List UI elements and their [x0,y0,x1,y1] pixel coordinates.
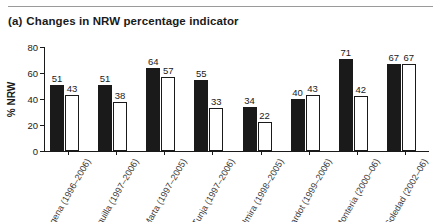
bar-value-label-before: 64 [148,56,159,67]
bar-value-label-after: 67 [404,52,415,63]
y-tick-label: 0 [33,146,38,157]
bar-value-label-after: 38 [115,90,126,101]
x-axis-category-label: Girardot (1999–2006) [282,157,334,222]
x-tick-mark [164,151,165,155]
x-axis-category-label: Soledad (2002–06) [383,157,430,222]
bar-value-label-before: 51 [52,73,63,84]
bar-after [209,108,223,151]
figure-caption: (a)Changes in NRW percentage indicator [8,15,239,27]
x-tick-mark [357,151,358,155]
y-tick-label: 60 [27,68,38,79]
chart-plot-area: 020406080 514351386457553334224043714267… [44,47,429,152]
bar-after [306,95,320,151]
bar-after [402,64,416,151]
x-tick-mark [405,151,406,155]
bar-after [354,96,368,151]
bar-group: 3422 [237,47,285,151]
bar-group: 6767 [381,47,429,151]
bar-value-label-before: 67 [389,52,400,63]
bar-value-label-after: 43 [307,83,318,94]
x-tick-mark [261,151,262,155]
bar-value-label-before: 40 [292,87,303,98]
y-tick-label: 20 [27,120,38,131]
bar-after [161,77,175,151]
x-tick-mark [116,151,117,155]
bar-group: 6457 [140,47,188,151]
x-axis-category-label: Tunja (1997–2006) [191,157,238,222]
bar-before [98,85,112,151]
bar-before [243,107,257,151]
x-tick-mark [68,151,69,155]
bar-value-label-after: 33 [211,96,222,107]
bar-group: 7142 [333,47,381,151]
y-axis-title: % NRW [5,47,19,152]
bar-group: 5143 [44,47,92,151]
bar-value-label-after: 57 [163,65,174,76]
bar-after [65,95,79,151]
top-divider [8,6,433,7]
x-axis-category-label: Monteria (2000–06) [334,157,382,222]
x-axis-line [44,151,429,152]
bar-before [387,64,401,151]
bar-value-label-after: 42 [355,84,366,95]
bar-value-label-before: 55 [196,68,207,79]
caption-text: Changes in NRW percentage indicator [26,15,238,27]
bar-value-label-after: 43 [67,83,78,94]
y-axis-title-text: % NRW [7,82,18,117]
bar-value-label-before: 34 [244,95,255,106]
bar-group: 5533 [188,47,236,151]
bar-value-label-after: 22 [259,110,270,121]
x-axis-category-label: Palmira (1998–2005) [235,157,286,222]
x-axis-category-label: Santa Marta (1997–2005) [129,157,189,222]
bar-after [113,102,127,151]
y-tick-mark [40,151,44,152]
x-axis-category-label: Barranquilla (1997–2006) [81,157,140,222]
bar-group: 5138 [92,47,140,151]
bar-before [291,99,305,151]
bar-before [339,59,353,151]
x-axis-category-label: Cartagena (1996–2006) [36,157,92,222]
bar-value-label-before: 51 [100,73,111,84]
bar-before [50,85,64,151]
bar-before [146,68,160,151]
bar-before [194,80,208,152]
bar-after [258,122,272,151]
y-tick-label: 40 [27,94,38,105]
y-tick-label: 80 [27,42,38,53]
bar-group: 4043 [285,47,333,151]
x-tick-mark [309,151,310,155]
bar-value-label-before: 71 [340,47,351,58]
x-tick-mark [212,151,213,155]
caption-label: (a) [8,15,22,27]
